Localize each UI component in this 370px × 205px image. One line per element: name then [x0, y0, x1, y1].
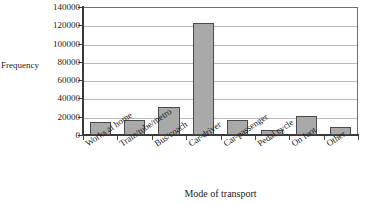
bars-layer [83, 7, 358, 135]
y-axis-tick-mark [78, 44, 83, 45]
x-axis-tick-mark [83, 136, 84, 140]
x-axis-tick-mark [358, 136, 359, 140]
y-axis-tick-mark [78, 117, 83, 118]
x-axis-tick-mark [186, 136, 187, 140]
y-axis-tick-labels: 020000400006000080000100000120000140000 [36, 6, 80, 136]
bar [90, 122, 111, 135]
bar [261, 130, 282, 135]
bar [227, 120, 248, 135]
y-axis-tick-mark [78, 98, 83, 99]
bar [193, 23, 214, 135]
y-axis-tick-label: 120000 [36, 21, 80, 30]
y-axis-tick-mark [78, 7, 83, 8]
bar [296, 116, 317, 135]
bar [330, 127, 351, 135]
y-axis-tick-label: 0 [36, 131, 80, 140]
bar [124, 120, 145, 135]
x-axis-tick-mark [221, 136, 222, 140]
x-axis-tick-mark [152, 136, 153, 140]
y-axis-tick-label: 80000 [36, 57, 80, 66]
y-axis-tick-mark [78, 25, 83, 26]
y-axis-tick-label: 140000 [36, 3, 80, 12]
y-axis-tick-mark [78, 80, 83, 81]
x-axis-tick-mark [324, 136, 325, 140]
x-axis-tick-mark [117, 136, 118, 140]
y-axis-tick-label: 100000 [36, 39, 80, 48]
y-axis-tick-label: 20000 [36, 112, 80, 121]
x-axis-tick-mark [289, 136, 290, 140]
chart-screenshot: Bar chart to show mode of travel to work… [0, 0, 370, 205]
y-axis-title: Frequency [1, 60, 39, 70]
y-axis-tick-mark [78, 62, 83, 63]
x-axis-tick-mark [255, 136, 256, 140]
bar [158, 107, 179, 135]
y-axis-tick-label: 60000 [36, 76, 80, 85]
y-axis-tick-label: 40000 [36, 94, 80, 103]
x-axis-title: Mode of transport [83, 188, 358, 199]
